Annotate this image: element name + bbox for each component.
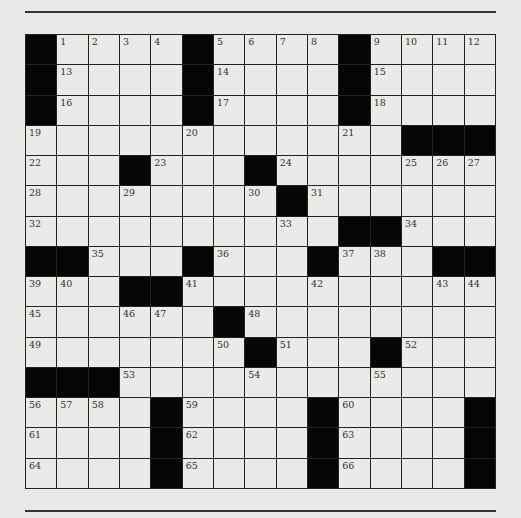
grid-cell[interactable]: [433, 307, 463, 336]
grid-cell[interactable]: [57, 217, 87, 246]
grid-cell[interactable]: 25: [402, 156, 432, 185]
grid-cell[interactable]: [371, 428, 401, 457]
grid-cell[interactable]: [57, 126, 87, 155]
grid-cell[interactable]: [183, 156, 213, 185]
grid-cell[interactable]: 44: [465, 277, 495, 306]
grid-cell[interactable]: [433, 338, 463, 367]
grid-cell[interactable]: [402, 368, 432, 397]
grid-cell[interactable]: [465, 65, 495, 94]
grid-cell[interactable]: 27: [465, 156, 495, 185]
grid-cell[interactable]: [89, 277, 119, 306]
grid-cell[interactable]: [433, 398, 463, 427]
grid-cell[interactable]: [89, 156, 119, 185]
grid-cell[interactable]: [308, 338, 338, 367]
grid-cell[interactable]: [465, 217, 495, 246]
grid-cell[interactable]: [89, 96, 119, 125]
grid-cell[interactable]: 28: [26, 186, 56, 215]
grid-cell[interactable]: [402, 307, 432, 336]
grid-cell[interactable]: [245, 217, 275, 246]
grid-cell[interactable]: [339, 338, 369, 367]
grid-cell[interactable]: [183, 368, 213, 397]
grid-cell[interactable]: [120, 247, 150, 276]
grid-cell[interactable]: 19: [26, 126, 56, 155]
grid-cell[interactable]: 22: [26, 156, 56, 185]
grid-cell[interactable]: [402, 277, 432, 306]
grid-cell[interactable]: [277, 307, 307, 336]
grid-cell[interactable]: [89, 428, 119, 457]
grid-cell[interactable]: [120, 96, 150, 125]
grid-cell[interactable]: [402, 186, 432, 215]
grid-cell[interactable]: [245, 126, 275, 155]
grid-cell[interactable]: [151, 247, 181, 276]
grid-cell[interactable]: 8: [308, 35, 338, 64]
grid-cell[interactable]: [433, 65, 463, 94]
grid-cell[interactable]: 57: [57, 398, 87, 427]
grid-cell[interactable]: 37: [339, 247, 369, 276]
grid-cell[interactable]: [371, 186, 401, 215]
grid-cell[interactable]: [308, 96, 338, 125]
grid-cell[interactable]: 29: [120, 186, 150, 215]
grid-cell[interactable]: 26: [433, 156, 463, 185]
grid-cell[interactable]: [120, 459, 150, 488]
grid-cell[interactable]: [433, 459, 463, 488]
grid-cell[interactable]: 14: [214, 65, 244, 94]
grid-cell[interactable]: 48: [245, 307, 275, 336]
grid-cell[interactable]: [151, 338, 181, 367]
grid-cell[interactable]: 55: [371, 368, 401, 397]
grid-cell[interactable]: [214, 459, 244, 488]
grid-cell[interactable]: 56: [26, 398, 56, 427]
grid-cell[interactable]: [371, 156, 401, 185]
grid-cell[interactable]: [277, 277, 307, 306]
grid-cell[interactable]: 11: [433, 35, 463, 64]
grid-cell[interactable]: [433, 96, 463, 125]
grid-cell[interactable]: [339, 307, 369, 336]
grid-cell[interactable]: [120, 217, 150, 246]
grid-cell[interactable]: [465, 368, 495, 397]
grid-cell[interactable]: [120, 65, 150, 94]
grid-cell[interactable]: [402, 247, 432, 276]
grid-cell[interactable]: 4: [151, 35, 181, 64]
grid-cell[interactable]: 64: [26, 459, 56, 488]
grid-cell[interactable]: 61: [26, 428, 56, 457]
grid-cell[interactable]: 33: [277, 217, 307, 246]
grid-cell[interactable]: [245, 459, 275, 488]
grid-cell[interactable]: 59: [183, 398, 213, 427]
grid-cell[interactable]: [151, 126, 181, 155]
grid-cell[interactable]: [277, 65, 307, 94]
grid-cell[interactable]: 45: [26, 307, 56, 336]
grid-cell[interactable]: [308, 217, 338, 246]
grid-cell[interactable]: 13: [57, 65, 87, 94]
grid-cell[interactable]: [402, 459, 432, 488]
grid-cell[interactable]: 17: [214, 96, 244, 125]
grid-cell[interactable]: 6: [245, 35, 275, 64]
grid-cell[interactable]: 12: [465, 35, 495, 64]
grid-cell[interactable]: [277, 398, 307, 427]
grid-cell[interactable]: 60: [339, 398, 369, 427]
grid-cell[interactable]: [57, 338, 87, 367]
grid-cell[interactable]: 21: [339, 126, 369, 155]
grid-cell[interactable]: [214, 217, 244, 246]
grid-cell[interactable]: 1: [57, 35, 87, 64]
grid-cell[interactable]: 10: [402, 35, 432, 64]
grid-cell[interactable]: 5: [214, 35, 244, 64]
grid-cell[interactable]: [465, 338, 495, 367]
grid-cell[interactable]: [183, 186, 213, 215]
grid-cell[interactable]: [465, 307, 495, 336]
grid-cell[interactable]: [402, 96, 432, 125]
grid-cell[interactable]: 39: [26, 277, 56, 306]
grid-cell[interactable]: [371, 307, 401, 336]
grid-cell[interactable]: [308, 156, 338, 185]
grid-cell[interactable]: [277, 368, 307, 397]
grid-cell[interactable]: [57, 459, 87, 488]
grid-cell[interactable]: 9: [371, 35, 401, 64]
grid-cell[interactable]: 49: [26, 338, 56, 367]
grid-cell[interactable]: [245, 277, 275, 306]
grid-cell[interactable]: [89, 65, 119, 94]
grid-cell[interactable]: [89, 307, 119, 336]
grid-cell[interactable]: [308, 368, 338, 397]
grid-cell[interactable]: 2: [89, 35, 119, 64]
grid-cell[interactable]: [57, 307, 87, 336]
grid-cell[interactable]: [214, 398, 244, 427]
grid-cell[interactable]: [402, 398, 432, 427]
grid-cell[interactable]: 46: [120, 307, 150, 336]
